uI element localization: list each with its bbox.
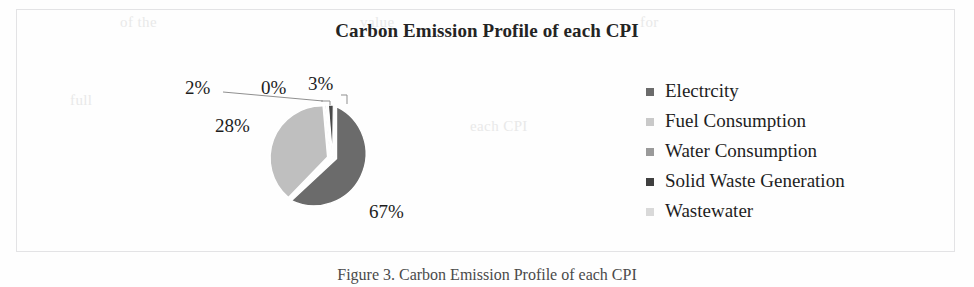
leader-line-solid-waste-tick xyxy=(341,95,347,104)
data-label-electrcity: 67% xyxy=(369,201,404,223)
legend-label-wastewater: Wastewater xyxy=(665,200,753,222)
legend-item-water-consumption[interactable]: Water Consumption xyxy=(646,136,946,166)
legend-item-wastewater[interactable]: Wastewater xyxy=(646,196,946,226)
legend-swatch-icon-electrcity xyxy=(646,88,654,96)
data-label-fuel-consumption: 28% xyxy=(215,115,250,137)
legend-swatch-icon-fuel-consumption xyxy=(646,118,654,126)
chart-legend: Electrcity Fuel Consumption Water Consum… xyxy=(646,76,946,226)
legend-label-water-consumption: Water Consumption xyxy=(665,140,817,162)
legend-item-solid-waste-generation[interactable]: Solid Waste Generation xyxy=(646,166,946,196)
figure-caption: Figure 3. Carbon Emission Profile of eac… xyxy=(0,266,974,284)
pie-slices xyxy=(270,105,366,206)
legend-swatch-icon-water-consumption xyxy=(646,148,654,156)
pie-plot-area: 2% 0% 3% 28% 67% xyxy=(175,55,595,240)
legend-label-electrcity: Electrcity xyxy=(665,80,739,102)
chart-title: Carbon Emission Profile of each CPI xyxy=(0,20,974,42)
data-label-solid-waste-generation: 3% xyxy=(308,73,333,95)
legend-swatch-icon-solid-waste-generation xyxy=(646,178,654,186)
legend-item-fuel-consumption[interactable]: Fuel Consumption xyxy=(646,106,946,136)
data-label-wastewater: 2% xyxy=(185,77,210,99)
data-label-water-consumption: 0% xyxy=(261,77,286,99)
legend-label-solid-waste-generation: Solid Waste Generation xyxy=(665,170,845,192)
legend-swatch-icon-wastewater xyxy=(646,208,654,216)
legend-label-fuel-consumption: Fuel Consumption xyxy=(665,110,806,132)
figure-page: of the value for full each CPI Carbon Em… xyxy=(0,0,974,287)
legend-item-electrcity[interactable]: Electrcity xyxy=(646,76,946,106)
